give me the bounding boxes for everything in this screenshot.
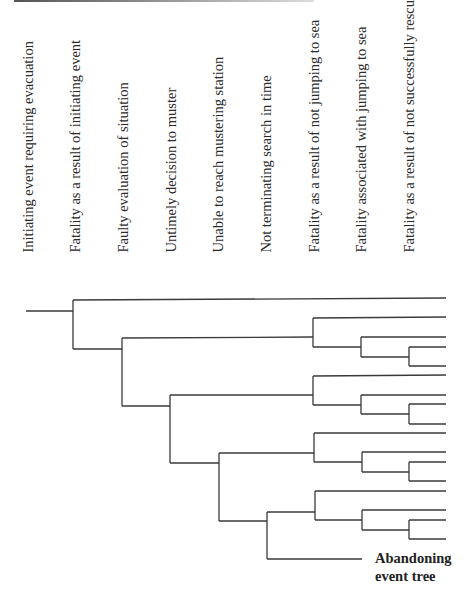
caption-line-1: Abandoning	[375, 549, 452, 567]
event-tree-lines	[0, 0, 464, 596]
caption-line-2: event tree	[375, 567, 452, 585]
diagram-caption: Abandoning event tree	[375, 549, 452, 585]
